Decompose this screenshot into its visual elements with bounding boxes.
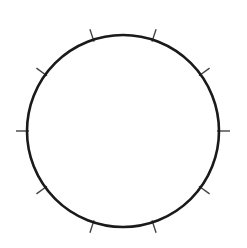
circle [27, 35, 219, 227]
tick-marks [16, 29, 230, 233]
circle-diagram [0, 0, 247, 248]
